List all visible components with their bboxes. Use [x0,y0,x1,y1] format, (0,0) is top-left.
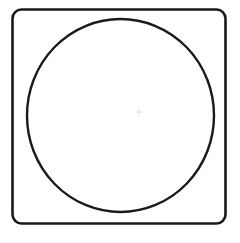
line-drawing-canvas [0,0,240,243]
canvas-background [0,0,240,243]
drawing-surface [0,0,240,243]
